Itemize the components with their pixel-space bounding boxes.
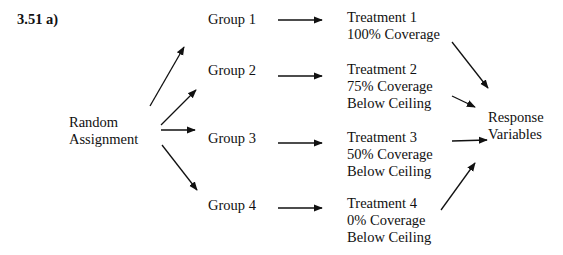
treatment-1-coverage: 100% Coverage [347,26,440,43]
treatment-2-title: Treatment 2 [347,61,417,78]
treatment-2-note: Below Ceiling [347,95,431,112]
arrow-random-to-group-2 [161,90,196,125]
arrow-treatment-3-to-response [452,140,487,141]
random-assignment-line-1: Random [69,114,118,131]
group-2-node: Group 2 [208,62,256,79]
random-assignment-line-2: Assignment [69,131,138,148]
arrow-treatment-2-to-response [452,96,475,107]
treatment-3-coverage: 50% Coverage [347,146,433,163]
group-3-node: Group 3 [208,130,256,147]
group-1-node: Group 1 [208,11,256,28]
treatment-4-coverage: 0% Coverage [347,212,426,229]
response-variables-line-1: Response [488,109,544,126]
treatment-3-note: Below Ceiling [347,163,431,180]
treatment-4-note: Below Ceiling [347,229,431,246]
group-4-node: Group 4 [208,197,256,214]
arrow-random-to-group-4 [162,145,197,190]
treatment-4-title: Treatment 4 [347,195,417,212]
problem-label: 3.51 a) [17,11,58,28]
treatment-3-title: Treatment 3 [347,129,417,146]
arrow-random-to-group-1 [150,47,184,106]
treatment-2-coverage: 75% Coverage [347,78,433,95]
treatment-1-title: Treatment 1 [347,9,417,26]
response-variables-line-2: Variables [488,126,542,143]
arrow-treatment-1-to-response [452,42,488,88]
arrow-treatment-4-to-response [441,163,475,210]
